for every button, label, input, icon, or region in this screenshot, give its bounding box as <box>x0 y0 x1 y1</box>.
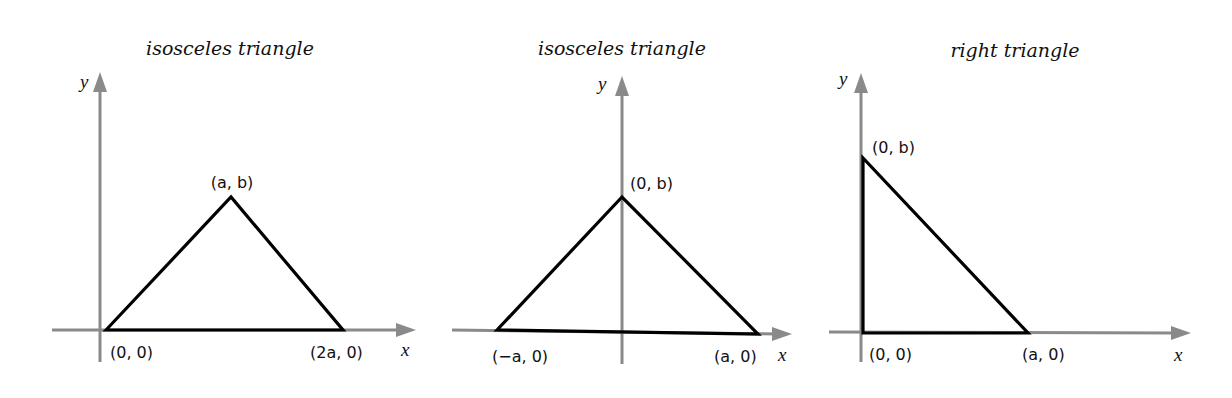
y-axis-arrow-icon <box>93 72 107 92</box>
x-axis-arrow-icon <box>396 323 416 337</box>
panel-right-triangle: right triangle y x (0, 0) (0, b) (a, 0) <box>829 39 1191 365</box>
x-axis-label: x <box>400 339 410 360</box>
y-axis-arrow-icon <box>854 73 868 93</box>
vertex-label: (a, 0) <box>1022 345 1065 364</box>
y-axis-label: y <box>837 68 848 89</box>
vertex-label: (0, 0) <box>110 343 153 362</box>
triangle-shape <box>863 158 1028 333</box>
y-axis-label: y <box>596 73 607 94</box>
triangle-diagrams: isosceles triangle y x (0, 0) (a, b) (2a… <box>0 0 1232 398</box>
vertex-label: (0, 0) <box>869 345 912 364</box>
y-axis-arrow-icon <box>615 76 629 96</box>
panel-title: isosceles triangle <box>146 37 314 59</box>
panel-title: right triangle <box>950 39 1079 61</box>
x-axis-label: x <box>777 344 787 365</box>
vertex-label: (0, b) <box>872 138 915 157</box>
x-axis-arrow-icon <box>1171 326 1191 340</box>
vertex-label: (a, 0) <box>714 347 757 366</box>
vertex-label: (a, b) <box>211 173 254 192</box>
vertex-label: (0, b) <box>630 174 673 193</box>
panel-isosceles-origin: isosceles triangle y x (0, 0) (a, b) (2a… <box>52 37 416 362</box>
panel-title: isosceles triangle <box>538 37 706 59</box>
x-axis-label: x <box>1173 344 1183 365</box>
vertex-label: (2a, 0) <box>310 343 363 362</box>
vertex-label: (−a, 0) <box>492 347 548 366</box>
triangle-shape <box>106 197 343 330</box>
panel-isosceles-centered: isosceles triangle y x (−a, 0) (0, b) (a… <box>452 37 792 366</box>
triangle-shape <box>497 197 758 334</box>
x-axis-arrow-icon <box>772 327 792 341</box>
y-axis-label: y <box>78 71 89 92</box>
